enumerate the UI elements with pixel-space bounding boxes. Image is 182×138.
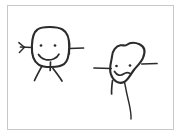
right-figure-mouth	[115, 72, 132, 76]
right-figure-right-eye	[129, 64, 132, 67]
right-figure	[94, 43, 157, 119]
left-figure-right-leg	[53, 69, 62, 82]
left-figure-mouth	[39, 54, 60, 60]
left-figure-left-arm	[21, 47, 33, 48]
left-figure-right-eye	[54, 44, 57, 47]
right-figure-head-outline	[110, 43, 144, 83]
right-figure-right-arm	[142, 64, 157, 65]
right-figure-right-leg	[125, 82, 132, 119]
left-figure-left-eye	[40, 44, 43, 47]
left-figure-right-arm	[69, 48, 83, 49]
right-figure-left-arm	[94, 68, 111, 69]
right-figure-left-leg	[112, 81, 113, 95]
left-figure-left-hand-finger-lower	[19, 47, 24, 52]
sketch-drawing	[0, 0, 182, 138]
right-figure-left-eye	[115, 65, 118, 68]
left-figure	[19, 27, 84, 81]
left-figure-left-leg	[35, 66, 43, 81]
sketch-canvas	[0, 0, 182, 138]
left-figure-head-outline	[32, 27, 69, 67]
